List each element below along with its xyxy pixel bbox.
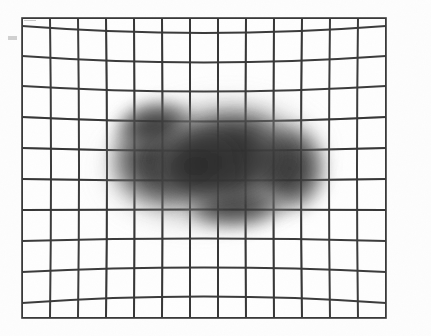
film-grain bbox=[0, 0, 431, 336]
figure-canvas bbox=[0, 0, 431, 336]
radiograph-figure: Distorted grid phantom with dark elongat… bbox=[0, 0, 431, 336]
